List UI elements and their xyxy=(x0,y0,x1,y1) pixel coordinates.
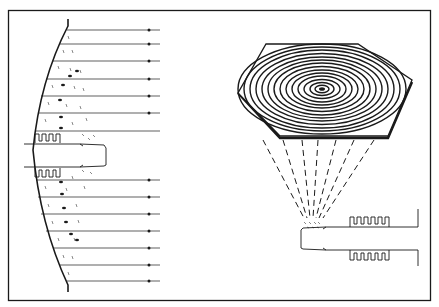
reflector-curve xyxy=(33,19,68,292)
waveguide-body xyxy=(301,227,326,250)
left-horn-feed xyxy=(24,134,106,177)
lower-corrugation xyxy=(350,250,389,260)
dashed-rays xyxy=(263,140,374,218)
waveguide-body xyxy=(80,144,106,167)
spiral-center xyxy=(319,87,325,91)
scatter-blobs xyxy=(58,70,79,241)
hex-plate-assembly xyxy=(238,44,418,266)
reflector-assembly xyxy=(24,19,160,292)
diagram-canvas xyxy=(0,0,439,307)
upper-corrugation xyxy=(350,217,389,227)
scatter-marks xyxy=(45,36,95,275)
right-horn-feed xyxy=(301,209,418,266)
upper-rays xyxy=(36,30,160,131)
lower-corrugation xyxy=(35,168,60,177)
upper-corrugation xyxy=(35,134,60,143)
lower-ray-dots xyxy=(148,179,151,283)
upper-ray-dots xyxy=(148,29,151,115)
lower-rays xyxy=(36,180,160,281)
